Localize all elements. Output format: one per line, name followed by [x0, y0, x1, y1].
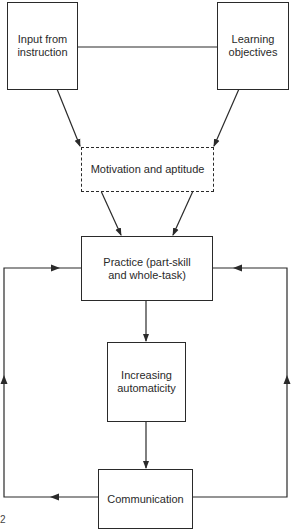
figure-corner-mark: 2	[0, 514, 6, 525]
arrowhead-right-top	[233, 265, 242, 272]
node-label: Practice (part-skill and whole-task)	[103, 256, 190, 282]
node-learning-objectives: Learning objectives	[217, 2, 289, 90]
arrowhead-left-top	[51, 265, 60, 272]
node-communication: Communication	[98, 469, 193, 529]
loop-left	[4, 268, 98, 497]
node-input-from-instruction: Input from instruction	[7, 2, 78, 90]
node-label: Increasing automaticity	[117, 369, 176, 395]
loop-right	[192, 268, 287, 497]
node-practice: Practice (part-skill and whole-task)	[81, 236, 213, 301]
arrowhead-left-bottom	[50, 494, 59, 501]
node-label: Communication	[107, 493, 183, 506]
arrowhead-left-up	[1, 375, 8, 384]
node-motivation-aptitude: Motivation and aptitude	[81, 147, 214, 192]
node-label: Motivation and aptitude	[91, 163, 205, 176]
node-increasing-automaticity: Increasing automaticity	[107, 342, 186, 422]
arrowhead-right-up	[284, 375, 291, 384]
node-label: Learning objectives	[229, 33, 278, 59]
arrow-input-motivation	[57, 89, 80, 146]
arrow-motivation-practice-left	[101, 191, 121, 235]
arrow-motivation-practice-right	[173, 191, 193, 235]
node-label: Input from instruction	[17, 33, 67, 59]
arrow-objectives-motivation	[214, 89, 239, 146]
